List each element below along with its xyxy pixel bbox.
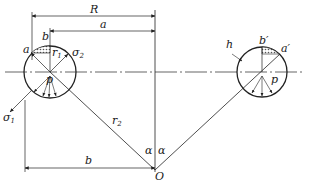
radius-arrow-a (31, 53, 50, 72)
right-r2-line (155, 54, 280, 170)
label-p-left: p (46, 73, 53, 86)
label-O: O (155, 170, 164, 183)
label-b-prime: b′ (259, 34, 269, 47)
label-alpha-right: α (158, 144, 166, 157)
label-b-top: b (42, 30, 49, 43)
label-r2: r2 (112, 114, 122, 128)
torus-cross-section-diagram: R a b a r1 σ2 σ1 p r2 α α b O h b′ a′ p (0, 0, 310, 183)
label-h: h (226, 38, 233, 51)
h-arrow (232, 54, 242, 61)
label-sigma1: σ1 (3, 111, 15, 125)
left-hatched-element (31, 46, 50, 53)
label-a-top: a (100, 18, 107, 31)
sigma1-arrow (10, 91, 31, 112)
label-p-right: p (271, 73, 278, 86)
label-alpha-left: α (145, 144, 153, 157)
label-b-bottom: b (85, 154, 92, 167)
label-a-prime: a′ (281, 42, 291, 55)
r2-line (50, 72, 155, 170)
label-R: R (89, 3, 98, 16)
label-sigma2: σ2 (72, 46, 85, 60)
label-a-left: a (23, 43, 30, 56)
